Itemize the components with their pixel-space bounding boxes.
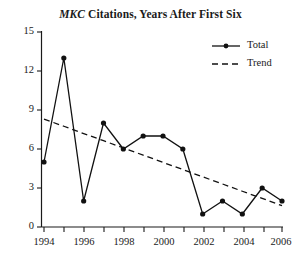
data-point-marker [260, 185, 265, 190]
x-tick-label-2004: 2004 [234, 236, 256, 247]
data-point-marker [279, 198, 284, 203]
y-tick-labels: 15 12 9 6 3 0 [24, 25, 35, 231]
chart-legend: Total Trend [212, 39, 272, 68]
chart-plot-area: 15 12 9 6 3 0 1994 1996 1998 [0, 0, 301, 262]
x-tick-label-1998: 1998 [114, 236, 135, 247]
data-point-marker [240, 211, 245, 216]
y-tick-label-0: 0 [29, 220, 34, 231]
y-tick-label-12: 12 [24, 64, 35, 75]
data-point-marker [81, 198, 86, 203]
data-point-marker [160, 133, 165, 138]
x-tick-label-2000: 2000 [154, 236, 175, 247]
x-tick-label-1994: 1994 [34, 236, 56, 247]
y-tick-marks [37, 32, 42, 227]
x-tick-marks [44, 227, 282, 232]
data-point-marker [101, 120, 106, 125]
x-tick-label-2002: 2002 [194, 236, 215, 247]
total-data-markers [41, 55, 284, 216]
data-point-marker [200, 211, 205, 216]
series-trend [44, 119, 282, 206]
data-point-marker [220, 198, 225, 203]
series-total [41, 55, 284, 216]
x-tick-label-1996: 1996 [74, 236, 95, 247]
data-point-marker [180, 146, 185, 151]
data-point-marker [141, 133, 146, 138]
trend-line-path [44, 119, 282, 206]
x-tick-label-2006: 2006 [271, 236, 292, 247]
y-tick-label-6: 6 [29, 142, 34, 153]
legend-total-label: Total [247, 39, 269, 50]
legend-total-swatch-marker [224, 44, 229, 49]
x-tick-labels: 1994 1996 1998 2000 2002 2004 2006 [34, 236, 292, 247]
y-tick-label-3: 3 [29, 181, 34, 192]
data-point-marker [41, 159, 46, 164]
data-point-marker [61, 55, 66, 60]
chart-container: MKC Citations, Years After First Six 15 … [0, 0, 301, 262]
legend-trend-label: Trend [247, 57, 272, 68]
y-tick-label-9: 9 [29, 103, 34, 114]
y-tick-label-15: 15 [24, 25, 35, 36]
data-point-marker [121, 146, 126, 151]
